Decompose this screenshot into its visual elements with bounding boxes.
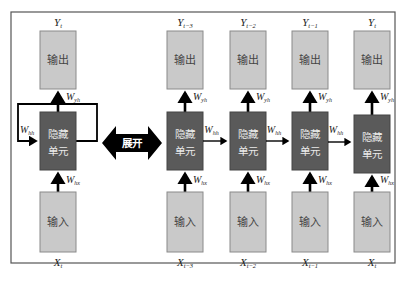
- output-label-3: 输出: [361, 53, 383, 67]
- rnn-diagram: Yt 输出 Wyh Whh 隐藏 单元 Whx 输入 Xt 展开 Yt−3输出W…: [0, 0, 407, 283]
- hidden-label-1-3: 隐藏: [362, 131, 383, 143]
- hidden-box-1: [230, 112, 266, 170]
- hidden-label-2-0: 单元: [175, 145, 196, 157]
- input-label-1: 输入: [237, 215, 259, 229]
- hidden-label-2-3: 单元: [362, 148, 383, 160]
- hidden-box-0: [167, 112, 203, 170]
- hidden-label-1-0: 隐藏: [175, 128, 196, 140]
- hidden-box-3: [354, 115, 390, 173]
- unfold-label: 展开: [122, 137, 143, 149]
- output-label-2: 输出: [299, 53, 321, 67]
- input-label-2: 输入: [299, 215, 321, 229]
- output-label-0: 输出: [174, 53, 196, 67]
- hidden-label-2-1: 单元: [238, 145, 259, 157]
- input-label-3: 输入: [361, 215, 383, 229]
- folded-hidden-label-2: 单元: [48, 145, 69, 157]
- folded-output-label: 输出: [47, 53, 69, 67]
- hidden-label-2-2: 单元: [300, 145, 321, 157]
- hidden-label-1-1: 隐藏: [238, 128, 259, 140]
- input-label-0: 输入: [174, 215, 196, 229]
- folded-input-label: 输入: [47, 215, 69, 229]
- folded-hidden-box: [40, 112, 76, 170]
- hidden-label-1-2: 隐藏: [300, 128, 321, 140]
- hidden-box-2: [292, 112, 328, 170]
- output-label-1: 输出: [237, 53, 259, 67]
- folded-hidden-label-1: 隐藏: [48, 128, 69, 140]
